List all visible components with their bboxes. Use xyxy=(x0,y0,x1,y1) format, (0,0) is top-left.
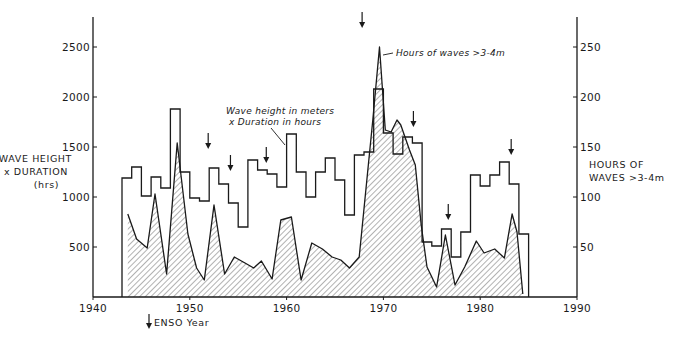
right-y-tick-label: 250 xyxy=(580,41,601,53)
annotation-step-line-1: Wave height in meters xyxy=(226,106,334,116)
annotation-step-line-2: x Duration in hours xyxy=(228,117,321,127)
annotation-step-series: Wave height in meters x Duration in hour… xyxy=(226,106,334,145)
x-tick-label: 1940 xyxy=(79,302,107,314)
x-tick-label: 1990 xyxy=(563,302,591,314)
left-y-tick-label: 1500 xyxy=(62,141,90,153)
enso-arrowhead-icon xyxy=(508,149,514,155)
x-tick-label: 1950 xyxy=(176,302,204,314)
left-axis-title-line-3: (hrs) xyxy=(34,179,59,190)
enso-arrowhead-icon xyxy=(205,143,211,149)
annotation-hours-text: Hours of waves >3-4m xyxy=(396,48,505,58)
x-tick-label: 1960 xyxy=(273,302,301,314)
enso-legend-label: ENSO Year xyxy=(154,317,209,328)
enso-arrowhead-icon xyxy=(445,214,451,220)
left-y-tick-label: 1000 xyxy=(62,191,90,203)
right-axis-title: HOURS OF WAVES >3-4m xyxy=(589,159,665,183)
right-axis-title-line-2: WAVES >3-4m xyxy=(589,172,665,183)
enso-arrowhead-icon xyxy=(263,157,269,163)
enso-arrowhead-icon xyxy=(410,121,416,127)
left-y-tick-label: 500 xyxy=(69,241,90,253)
left-y-tick-label: 2500 xyxy=(62,41,90,53)
left-axis-title: WAVE HEIGHT x DURATION (hrs) xyxy=(0,153,72,190)
wave-enso-chart: 1940195019601970198019905001000150020002… xyxy=(0,0,677,344)
annotation-hours-leader xyxy=(383,53,393,55)
enso-legend-arrowhead-icon xyxy=(146,323,152,329)
left-y-tick-label: 2000 xyxy=(62,91,90,103)
right-y-tick-label: 100 xyxy=(580,191,601,203)
enso-arrowhead-icon xyxy=(227,165,233,171)
left-axis-title-line-1: WAVE HEIGHT xyxy=(0,153,72,164)
x-tick-label: 1980 xyxy=(466,302,494,314)
enso-arrows xyxy=(205,12,514,220)
right-axis-title-line-1: HOURS OF xyxy=(589,159,644,170)
right-y-tick-label: 200 xyxy=(580,91,601,103)
chart-canvas: 1940195019601970198019905001000150020002… xyxy=(0,0,677,344)
left-axis-title-line-2: x DURATION xyxy=(4,166,68,177)
annotation-step-leader xyxy=(271,128,285,145)
x-tick-label: 1970 xyxy=(369,302,397,314)
annotation-hours-series: Hours of waves >3-4m xyxy=(383,48,505,58)
right-y-tick-label: 50 xyxy=(580,241,594,253)
enso-arrowhead-icon xyxy=(359,22,365,28)
right-y-tick-label: 150 xyxy=(580,141,601,153)
enso-legend: ENSO Year xyxy=(146,314,209,329)
